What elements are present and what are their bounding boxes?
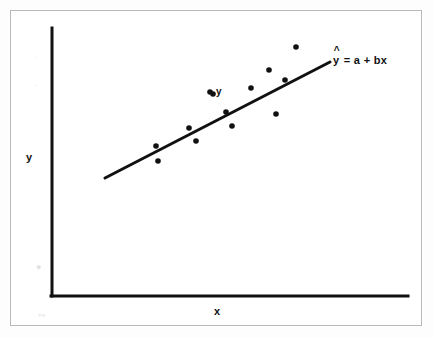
scan-artifact-mark: · [34, 52, 37, 62]
data-point [282, 77, 288, 83]
data-point [273, 111, 279, 117]
data-point [266, 67, 272, 73]
regression-line-group [105, 62, 330, 178]
data-point [153, 143, 159, 149]
data-point [193, 138, 199, 144]
observed-value-label: y [216, 86, 222, 97]
data-point [293, 44, 299, 50]
regression-equation-label: ^ y = a + bx [333, 54, 387, 66]
y-hat-symbol: ^ y [333, 54, 340, 66]
equation-body: = a + bx [340, 54, 387, 66]
plot-canvas [0, 0, 433, 338]
scan-artifact-mark: ● [36, 262, 41, 272]
scan-artifact-mark: · [34, 80, 37, 90]
x-axis-title: x [214, 305, 220, 317]
axes-group [51, 28, 408, 296]
data-point [210, 91, 216, 97]
data-point [186, 125, 192, 131]
figure-root: y x y ^ y = a + bx ● ∾ · · [0, 0, 433, 338]
regression-line [105, 62, 330, 178]
data-points-group [153, 44, 299, 164]
data-point [223, 109, 229, 115]
data-point [229, 123, 235, 129]
data-point [155, 158, 161, 164]
data-point [248, 85, 254, 91]
scan-artifact-mark: ∾ [38, 310, 46, 320]
y-axis-title: y [26, 151, 32, 163]
hat-accent-icon: ^ [333, 48, 340, 54]
